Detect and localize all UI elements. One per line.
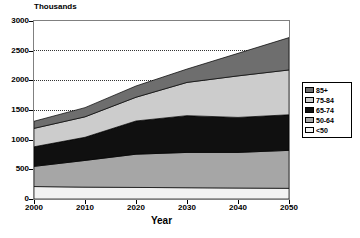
x-axis-tick-mark — [238, 200, 239, 204]
x-axis-tick-label: 2030 — [178, 203, 196, 212]
x-axis-tick-label: 2040 — [229, 203, 247, 212]
y-axis-tick-label: 2000 — [11, 76, 29, 84]
legend-item[interactable]: 85+ — [305, 85, 349, 95]
legend-swatch-icon — [305, 127, 314, 133]
legend-item[interactable]: 75-84 — [305, 95, 349, 105]
x-axis-tick-mark — [187, 200, 188, 204]
legend-swatch-icon — [305, 117, 314, 123]
y-axis-tick-label: 2500 — [11, 47, 29, 55]
x-axis-tick-mark — [85, 200, 86, 204]
legend-item[interactable]: <50 — [305, 125, 349, 135]
legend-item-label: 75-84 — [316, 97, 334, 104]
x-axis-tick-mark — [136, 200, 137, 204]
x-axis-tick-label: 2000 — [25, 203, 43, 212]
x-axis-tick-label: 2020 — [127, 203, 145, 212]
stacked-area-chart: Thousands 050010001500200025003000 Year … — [0, 0, 360, 238]
x-axis-tick-mark — [289, 200, 290, 204]
plot-area — [33, 20, 290, 200]
y-axis-tick-label: 500 — [16, 165, 29, 173]
x-axis-tick-label: 2050 — [280, 203, 298, 212]
x-axis-tick-label: 2010 — [76, 203, 94, 212]
y-axis-tick-label: 1500 — [11, 106, 29, 114]
legend-swatch-icon — [305, 87, 314, 93]
legend-item[interactable]: 65-74 — [305, 105, 349, 115]
legend-item-label: 85+ — [316, 87, 328, 94]
x-axis-tick-mark — [34, 200, 35, 204]
y-axis-unit-title: Thousands — [34, 2, 77, 11]
y-axis-tick-label: 3000 — [11, 17, 29, 25]
y-axis-tick-label: 1000 — [11, 136, 29, 144]
legend-item[interactable]: 50-64 — [305, 115, 349, 125]
legend-item-label: <50 — [316, 127, 328, 134]
plot-svg — [34, 21, 289, 199]
legend-swatch-icon — [305, 97, 314, 103]
x-axis-title: Year — [33, 215, 290, 226]
legend-item-label: 50-64 — [316, 117, 334, 124]
legend-swatch-icon — [305, 107, 314, 113]
legend-item-label: 65-74 — [316, 107, 334, 114]
legend: 85+75-8465-7450-64<50 — [302, 82, 352, 138]
